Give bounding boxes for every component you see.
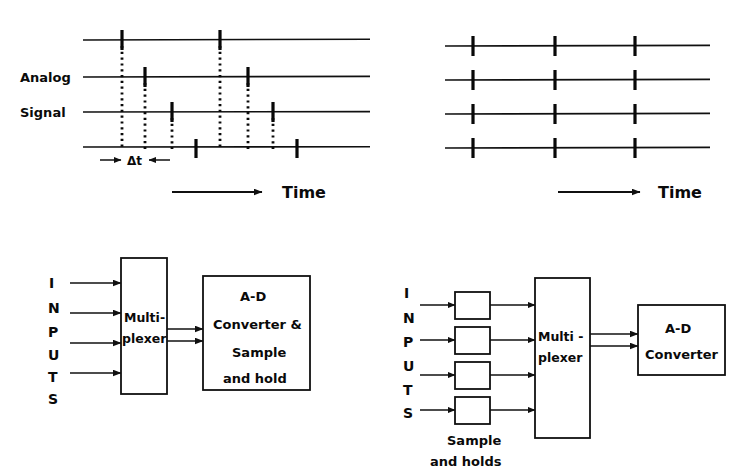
adc-box[interactable]: [638, 305, 725, 375]
multiplexer-label-line1: Multi -: [538, 329, 583, 344]
caption-line1: Sample: [447, 433, 501, 448]
block-multiplexer-right[interactable]: Multi - plexer: [535, 278, 590, 438]
output-bus-left: [167, 329, 203, 341]
input-arrows-right: [420, 305, 455, 410]
inputs-letter-t: T: [48, 369, 58, 385]
delta-t-marker: Δt: [100, 154, 170, 168]
inputs-letter-n: N: [403, 310, 415, 326]
block-adc-sample-hold-left[interactable]: A-D Converter & Sample and hold: [203, 276, 310, 390]
sample-hold-box[interactable]: [455, 292, 490, 319]
inputs-letter-s: S: [48, 391, 58, 407]
panel-top-right-timing: Time: [445, 36, 710, 202]
sample-ticks-left: [122, 30, 297, 158]
inputs-letter-u: U: [403, 358, 414, 374]
baseline-channel-2: [83, 76, 370, 77]
panel-top-left-timing: Analog Signal: [20, 30, 370, 202]
inputs-letter-i: I: [404, 285, 409, 301]
label-analog: Analog: [20, 70, 71, 85]
sample-hold-box[interactable]: [455, 362, 490, 389]
sample-drop-lines-left: [122, 46, 273, 149]
sample-ticks-right: [473, 36, 635, 158]
adc-label-line4: and hold: [223, 371, 287, 386]
block-adc-right[interactable]: A-D Converter: [638, 305, 725, 375]
baseline-channel-2: [445, 79, 710, 80]
adc-label-line1: A-D: [665, 321, 691, 336]
technical-figure: Analog Signal: [0, 0, 745, 475]
sample-hold-box[interactable]: [455, 397, 490, 424]
inputs-letter-p: P: [48, 324, 58, 340]
multiplexer-label-line1: Multi-: [124, 310, 165, 325]
baseline-channel-1: [445, 45, 710, 46]
multiplexer-box[interactable]: [121, 258, 167, 394]
inputs-letter-p: P: [403, 334, 413, 350]
sample-hold-caption: Sample and holds: [430, 433, 502, 469]
adc-label-line1: A-D: [240, 289, 266, 304]
inputs-letter-n: N: [48, 300, 60, 316]
time-label-left: Time: [282, 183, 326, 202]
output-bus-right: [590, 334, 638, 346]
baseline-channel-1: [83, 39, 370, 40]
adc-label-line2: Converter &: [213, 317, 302, 332]
panel-bottom-left-block-diagram: I N P U T S Multi- plexer A-D: [48, 258, 310, 407]
caption-line2: and holds: [430, 454, 502, 469]
inputs-letter-i: I: [49, 275, 54, 291]
figure-canvas: Analog Signal: [0, 0, 745, 475]
sh-to-mux-arrows: [490, 305, 535, 410]
time-axis-right: Time: [558, 183, 702, 202]
time-axis-left: Time: [172, 183, 326, 202]
inputs-label-right: I N P U T S: [403, 285, 415, 421]
delta-t-label: Δt: [127, 154, 142, 168]
multiplexer-label-line2: plexer: [122, 331, 167, 346]
baseline-channel-3: [445, 113, 710, 114]
adc-label-line3: Sample: [232, 345, 286, 360]
time-label-right: Time: [658, 183, 702, 202]
label-signal: Signal: [20, 105, 66, 120]
block-multiplexer-left[interactable]: Multi- plexer: [121, 258, 167, 394]
panel-bottom-right-block-diagram: I N P U T S Samp: [403, 278, 725, 469]
baseline-channel-4: [445, 147, 710, 148]
inputs-letter-s: S: [403, 405, 413, 421]
inputs-label-left: I N P U T S: [48, 275, 60, 407]
input-arrows-left: [70, 283, 121, 373]
inputs-letter-u: U: [48, 347, 59, 363]
signal-baselines-right: [445, 45, 710, 148]
sample-hold-box[interactable]: [455, 327, 490, 354]
adc-label-line2: Converter: [645, 347, 718, 362]
inputs-letter-t: T: [403, 382, 413, 398]
multiplexer-label-line2: plexer: [538, 350, 583, 365]
signal-baselines-left: [83, 39, 370, 147]
sample-hold-boxes[interactable]: [455, 292, 490, 424]
